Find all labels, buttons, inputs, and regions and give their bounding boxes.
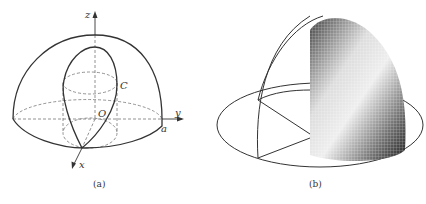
figure-panel-b: (b) — [213, 0, 426, 204]
arc-line — [258, 90, 310, 100]
figure-panel-a: z y x O C a (a) — [0, 0, 213, 204]
x-axis-dashed — [82, 119, 95, 148]
mesh-grid — [310, 18, 406, 161]
curve-c — [63, 47, 117, 148]
y-axis-label: y — [174, 107, 181, 118]
origin-label: O — [98, 108, 106, 119]
radial-line-1 — [258, 100, 310, 134]
meridian-arc-1 — [257, 16, 310, 158]
hemisphere-diagram: z y x O C a (a) — [0, 0, 213, 204]
z-axis-arrow-icon — [93, 11, 98, 18]
x-axis-label: x — [79, 159, 85, 170]
radial-line-2 — [258, 138, 310, 158]
mesh-surface-diagram: (b) — [213, 0, 426, 204]
x-axis-arrow-icon — [72, 162, 77, 170]
curve-c-label: C — [120, 80, 128, 91]
caption-b: (b) — [309, 179, 322, 189]
hemisphere-outline — [13, 35, 162, 119]
equator-back-dashed — [13, 100, 162, 119]
caption-a: (a) — [93, 179, 105, 189]
radius-label: a — [161, 123, 167, 134]
z-axis-label: z — [84, 9, 91, 20]
cylinder-top-ellipse — [63, 72, 117, 94]
